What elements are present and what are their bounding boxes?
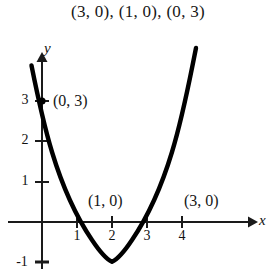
y-tick-label-2: 2 xyxy=(18,132,32,148)
x-tick-label-1: 1 xyxy=(70,228,84,244)
x-tick-label-4: 4 xyxy=(175,228,189,244)
y-axis-label: y xyxy=(44,40,51,57)
point-label-y-intercept: (0, 3) xyxy=(53,92,88,110)
x-tick-label-2: 2 xyxy=(105,228,119,244)
point-label-root-three: (3, 0) xyxy=(184,192,219,210)
x-axis-arrowhead xyxy=(248,217,258,228)
y-tick-label-1: 1 xyxy=(18,173,32,189)
point-label-root-one: (1, 0) xyxy=(88,192,123,210)
x-axis-label: x xyxy=(259,212,266,229)
y-intercept-marker xyxy=(38,97,45,104)
parabola-plot xyxy=(0,0,276,269)
y-tick-label-3: 3 xyxy=(18,92,32,108)
x-tick-label-3: 3 xyxy=(140,228,154,244)
figure-container: (3, 0), (1, 0), (0, 3) y x 1 2 3 4 3 2 1… xyxy=(0,0,276,269)
y-tick-label-neg-1: -1 xyxy=(12,254,32,269)
